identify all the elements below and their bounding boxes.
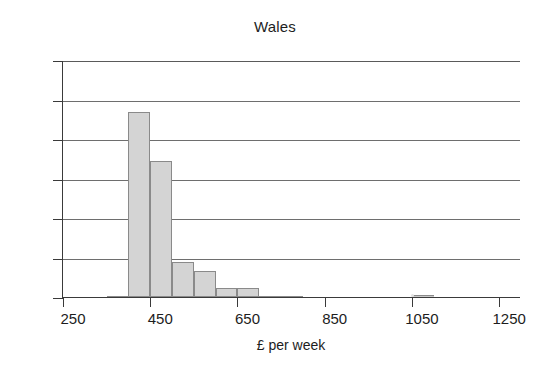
- histogram-bar: [216, 288, 238, 297]
- x-axis-tick-labels: 25045065085010501250: [63, 310, 520, 334]
- scan-speck: [411, 294, 414, 297]
- histogram-bar: [412, 295, 434, 297]
- x-axis-tick-label: 1250: [493, 310, 526, 327]
- histogram-bar: [150, 161, 172, 297]
- chart-figure: Wales 0102030405060 25045065085010501250…: [0, 0, 550, 380]
- histogram-bar: [107, 296, 129, 297]
- histogram-bar: [281, 296, 303, 297]
- x-axis-tick: [237, 298, 238, 307]
- histogram-bars: [63, 61, 520, 297]
- y-axis-tick: [53, 180, 63, 181]
- plot-area: 25045065085010501250: [62, 61, 520, 298]
- y-axis-tick: [53, 61, 63, 62]
- y-axis-tick: [53, 140, 63, 141]
- x-axis-title: £ per week: [62, 337, 520, 353]
- y-axis-tick: [53, 298, 63, 299]
- x-axis-tick-label: 250: [60, 310, 85, 327]
- y-axis-tick: [53, 101, 63, 102]
- chart-title: Wales: [0, 18, 550, 35]
- histogram-bar: [237, 288, 259, 297]
- x-axis-tick-label: 1050: [405, 310, 438, 327]
- histogram-bar: [259, 296, 281, 297]
- x-axis-tick-label: 450: [148, 310, 173, 327]
- x-axis-tick: [499, 298, 500, 307]
- y-axis-tick: [53, 259, 63, 260]
- x-axis-ticks: [63, 298, 520, 308]
- x-axis-tick: [63, 298, 64, 307]
- x-axis-tick-label: 850: [322, 310, 347, 327]
- x-axis-tick: [325, 298, 326, 307]
- x-axis-tick-label: 650: [235, 310, 260, 327]
- histogram-bar: [128, 112, 150, 297]
- y-axis-tick: [53, 219, 63, 220]
- x-axis-tick: [150, 298, 151, 307]
- x-axis-tick: [412, 298, 413, 307]
- histogram-bar: [172, 262, 194, 297]
- histogram-bar: [194, 271, 216, 297]
